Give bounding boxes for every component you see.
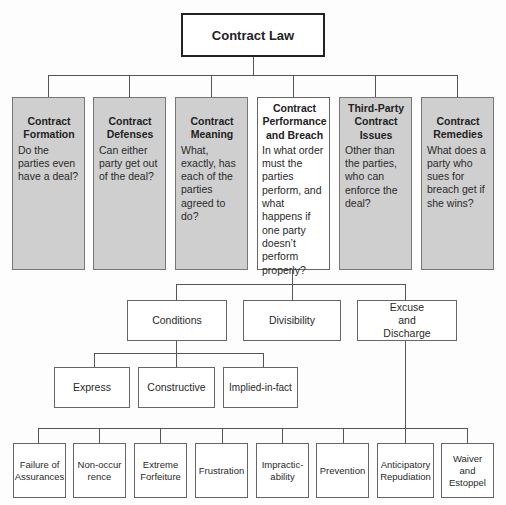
connector (293, 75, 294, 97)
category-contract-defenses: Contract Defenses Can either party get o… (93, 97, 166, 270)
node-label: Excuse and Discharge (380, 301, 434, 340)
node-failure-of-assurances: Failure of Assurances (13, 443, 66, 498)
category-title: Contract Remedies (427, 115, 489, 142)
connector (176, 284, 177, 301)
category-title: Third-Party Contract Issues (345, 102, 407, 142)
root-node-contract-law: Contract Law (181, 13, 325, 57)
connector (467, 428, 468, 443)
node-divisibility: Divisibility (243, 300, 341, 341)
category-title: Contract Defenses (99, 115, 161, 142)
node-impracticability: Impractic-ability (256, 443, 309, 498)
category-description: Other than the parties, who can enforce … (345, 144, 407, 210)
node-implied-in-fact: Implied-in-fact (223, 367, 298, 408)
connector (405, 340, 406, 428)
connector (457, 75, 458, 97)
node-express: Express (54, 367, 130, 408)
connector (222, 428, 223, 443)
connector (405, 428, 406, 443)
node-prevention: Prevention (316, 443, 369, 498)
connector (129, 75, 130, 97)
connector (99, 428, 100, 443)
category-description: In what order must the parties perform, … (262, 144, 327, 277)
connector (253, 56, 254, 75)
connector (94, 353, 263, 354)
category-contract-meaning: Contract Meaning What, exactly, has each… (175, 97, 248, 270)
category-title: Contract Performance and Breach (262, 102, 327, 142)
node-excuse-and-discharge: Excuse and Discharge (357, 300, 457, 341)
category-contract-remedies: Contract Remedies What does a party who … (421, 97, 494, 270)
category-title: Contract Meaning (181, 115, 243, 142)
node-constructive: Constructive (138, 367, 215, 408)
node-label: Constructive (147, 381, 205, 394)
node-label: Waiver and Estoppel (445, 453, 490, 489)
category-contract-performance-and-breach: Contract Performance and Breach In what … (257, 97, 330, 270)
connector (38, 428, 467, 429)
category-title: Contract Formation (18, 115, 80, 142)
connector (48, 75, 49, 97)
connector (176, 340, 177, 353)
connector (160, 428, 161, 443)
node-label: Prevention (320, 465, 365, 477)
connector (263, 353, 264, 367)
category-description: Do the parties even have a deal? (18, 144, 80, 184)
node-label: Express (73, 381, 111, 394)
node-label: Frustration (199, 465, 244, 477)
connector (343, 428, 344, 443)
connector (48, 75, 458, 76)
root-label: Contract Law (212, 29, 294, 42)
connector (375, 75, 376, 97)
category-description: What, exactly, has each of the parties a… (181, 144, 243, 224)
node-label: Anticipatory Repudiation (380, 459, 431, 483)
connector (282, 428, 283, 443)
node-frustration: Frustration (195, 443, 248, 498)
node-label: Implied-in-fact (229, 381, 292, 394)
connector (211, 75, 212, 97)
node-label: Impractic-ability (262, 459, 304, 483)
node-label: Extreme Forfeiture (140, 459, 181, 483)
node-label: Non-occurrence (78, 459, 122, 483)
connector (176, 284, 405, 285)
node-conditions: Conditions (127, 300, 227, 341)
category-description: Can either party get out of the deal? (99, 144, 161, 184)
node-non-occurrence: Non-occurrence (73, 443, 126, 498)
node-waiver-and-estoppel: Waiver and Estoppel (441, 443, 494, 498)
category-description: What does a party who sues for breach ge… (427, 144, 489, 210)
connector (405, 284, 406, 300)
connector (292, 284, 293, 300)
node-label: Failure of Assurances (15, 459, 65, 483)
category-third-party-contract-issues: Third-Party Contract Issues Other than t… (339, 97, 412, 270)
category-contract-formation: Contract Formation Do the parties even h… (12, 97, 85, 270)
connector (176, 353, 177, 367)
node-extreme-forfeiture: Extreme Forfeiture (134, 443, 187, 498)
node-label: Divisibility (269, 314, 315, 327)
node-anticipatory-repudiation: Anticipatory Repudiation (377, 443, 434, 498)
connector (38, 428, 39, 443)
node-label: Conditions (152, 314, 202, 327)
connector (94, 353, 95, 367)
